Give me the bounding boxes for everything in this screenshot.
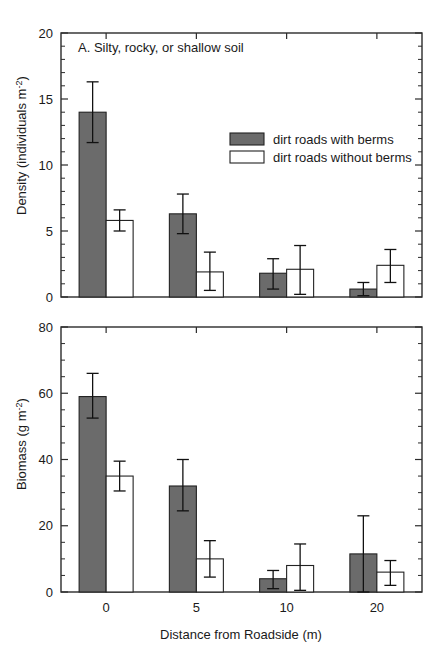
panel-a: 05101520 A. Silty, rocky, or shallow soi… (14, 26, 422, 305)
panel-a-y-tick-labels: 05101520 (39, 26, 53, 305)
panel-a-ylabel-main: Density (individuals m (14, 89, 29, 215)
y-tick-label: 20 (39, 26, 53, 41)
y-tick-label: 0 (46, 290, 53, 305)
y-tick-label: 80 (39, 320, 53, 335)
panel-b: 020406080 051020 Biomass (g m-2) Distanc… (14, 320, 422, 643)
bar-with-berms (79, 397, 106, 592)
x-tick-label: 20 (370, 600, 384, 615)
panel-b-ylabel-sup: -2 (14, 403, 24, 411)
x-axis-title: Distance from Roadside (m) (160, 627, 322, 642)
y-tick-label: 60 (39, 386, 53, 401)
y-tick-label: 0 (46, 585, 53, 600)
x-tick-label: 5 (193, 600, 200, 615)
panel-b-y-tick-labels: 020406080 (39, 320, 53, 600)
legend-swatch-without-berms (230, 151, 264, 163)
legend-swatch-with-berms (230, 133, 264, 145)
bar-without-berms (106, 476, 133, 592)
legend-label-with-berms: dirt roads with berms (273, 132, 394, 147)
panel-a-ylabel-tail: ) (14, 76, 29, 80)
y-tick-label: 5 (46, 224, 53, 239)
svg-text:Density (individuals m-2): Density (individuals m-2) (14, 76, 29, 215)
svg-text:Biomass (g m-2): Biomass (g m-2) (14, 398, 29, 490)
figure-root: 05101520 A. Silty, rocky, or shallow soi… (0, 0, 442, 659)
panel-a-y-axis-title: Density (individuals m-2) (14, 76, 29, 215)
x-tick-label: 10 (279, 600, 293, 615)
panel-b-x-tick-labels: 051020 (103, 600, 385, 615)
bar-without-berms (106, 220, 133, 297)
y-tick-label: 10 (39, 158, 53, 173)
panel-b-ylabel-tail: ) (14, 398, 29, 402)
y-tick-label: 40 (39, 452, 53, 467)
bar-chart-figure: 05101520 A. Silty, rocky, or shallow soi… (0, 0, 442, 659)
y-tick-label: 20 (39, 518, 53, 533)
panel-a-ylabel-sup: -2 (14, 81, 24, 89)
panel-b-ylabel-main: Biomass (g m (14, 411, 29, 490)
panel-a-title: A. Silty, rocky, or shallow soil (78, 40, 244, 55)
legend-label-without-berms: dirt roads without berms (273, 150, 412, 165)
x-tick-label: 0 (103, 600, 110, 615)
y-tick-label: 15 (39, 92, 53, 107)
panel-b-y-axis-title: Biomass (g m-2) (14, 398, 29, 490)
